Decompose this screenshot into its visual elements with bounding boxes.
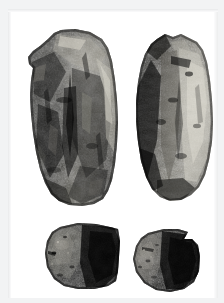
- specimen-bottom-left: [38, 217, 130, 298]
- specimen-stage: [8, 9, 218, 298]
- photographic-plate: [0, 0, 224, 303]
- specimen-bottom-left-image: [38, 217, 130, 298]
- specimen-bottom-right: [124, 223, 208, 298]
- specimen-top-left: [20, 28, 124, 210]
- specimen-bottom-right-image: [124, 223, 208, 298]
- photo-background: [8, 9, 218, 298]
- specimen-top-right: [127, 30, 218, 208]
- specimen-top-left-image: [20, 28, 124, 210]
- specimen-top-right-image: [127, 30, 218, 208]
